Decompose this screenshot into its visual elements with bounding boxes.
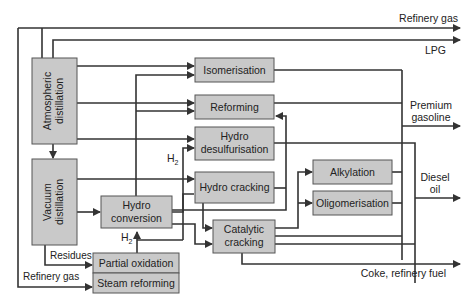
unit-partial-oxidation: Partial oxidation [93, 253, 179, 273]
catcracking-to-coke [242, 253, 460, 264]
atmospheric-distillation-label-1: Atmospheric [41, 72, 53, 130]
product-diesel-oil-1: Diesel [420, 171, 449, 183]
unit-hydro-desulfurisation: Hydro desulfurisation [195, 127, 274, 160]
hydro-conversion-label-2: conversion [111, 212, 162, 224]
vacuum-distillation-label-2: distillation [53, 179, 65, 225]
unit-alkylation: Alkylation [313, 160, 392, 184]
unit-catalytic-cracking: Catalytic cracking [213, 220, 275, 253]
catcracking-to-alkylation [275, 172, 312, 228]
catalytic-cracking-label-2: cracking [224, 236, 263, 248]
hydro-cracking-label: Hydro cracking [199, 181, 269, 193]
unit-hydro-cracking: Hydro cracking [195, 172, 274, 203]
h2-label-upper: H2 [167, 152, 179, 166]
hds-label-2: desulfurisation [201, 143, 269, 155]
unit-hydro-conversion: Hydro conversion [101, 196, 172, 228]
unit-vacuum-distillation: Vacuum distillation [32, 159, 77, 245]
refinery-gas-in-label: Refinery gas [23, 271, 79, 282]
catalytic-cracking-label-1: Catalytic [224, 223, 264, 235]
h2-label-lower: H2 [121, 231, 133, 245]
product-coke-refinery-fuel: Coke, refinery fuel [361, 267, 446, 279]
product-premium-gasoline-1: Premium [410, 99, 452, 111]
unit-steam-reforming: Steam reforming [93, 273, 179, 293]
hydrocracking-to-catcracking [203, 203, 212, 228]
steam-reforming-label: Steam reforming [97, 277, 175, 289]
product-lpg: LPG [425, 44, 446, 56]
hydroconv-to-catcracking [172, 224, 212, 244]
product-diesel-oil-2: oil [430, 183, 441, 195]
unit-oligomerisation: Oligomerisation [313, 191, 392, 215]
isomerisation-label: Isomerisation [203, 64, 266, 76]
refinery-flow-diagram: Atmospheric distillation Vacuum distilla… [0, 0, 476, 307]
atmospheric-distillation-label-2: distillation [53, 78, 65, 124]
product-premium-gasoline-2: gasoline [411, 111, 450, 123]
product-refinery-gas: Refinery gas [399, 12, 458, 24]
unit-isomerisation: Isomerisation [195, 58, 274, 82]
lpg-line [53, 40, 460, 58]
hydro-conversion-label-1: Hydro [122, 199, 150, 211]
residues-label: Residues [50, 250, 92, 261]
unit-atmospheric-distillation: Atmospheric distillation [32, 58, 77, 144]
alkylation-label: Alkylation [330, 166, 375, 178]
reforming-label: Reforming [210, 101, 259, 113]
oligomerisation-label: Oligomerisation [316, 197, 389, 209]
partial-oxidation-label: Partial oxidation [99, 257, 174, 269]
unit-reforming: Reforming [195, 95, 274, 119]
hds-label-1: Hydro [220, 130, 248, 142]
hydroconv-riser [136, 75, 194, 196]
vacuum-distillation-label-1: Vacuum [41, 183, 53, 221]
